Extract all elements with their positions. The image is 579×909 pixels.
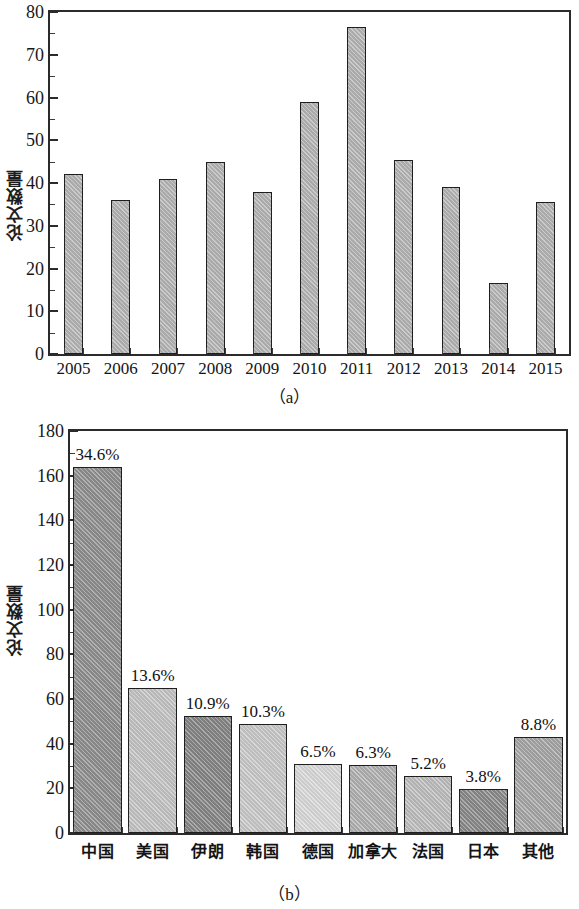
x-axis-minor-tick bbox=[287, 827, 288, 833]
bar-hatch-pattern bbox=[405, 777, 451, 832]
y-axis-label-panel-b: 论文数量 bbox=[2, 555, 27, 685]
panel-caption-b: （b） bbox=[0, 880, 579, 905]
bar-hatch-pattern bbox=[490, 284, 507, 353]
bar bbox=[294, 764, 342, 833]
y-axis-minor-tick bbox=[50, 333, 55, 334]
bar-value-label: 8.8% bbox=[521, 715, 556, 735]
y-axis-minor-tick bbox=[70, 453, 75, 454]
y-axis-tick-label: 100 bbox=[37, 601, 64, 619]
x-axis-minor-tick bbox=[508, 348, 509, 354]
x-axis-minor-tick bbox=[128, 827, 129, 833]
x-axis-minor-tick bbox=[489, 348, 490, 354]
bar bbox=[253, 192, 272, 354]
bar bbox=[349, 765, 397, 833]
bar-hatch-pattern bbox=[515, 738, 561, 832]
x-axis-tick-label: 法国 bbox=[412, 838, 445, 862]
y-axis-tick-label: 160 bbox=[37, 467, 64, 485]
x-axis-minor-tick bbox=[272, 348, 273, 354]
bar-hatch-pattern bbox=[74, 468, 120, 832]
bar-hatch-pattern bbox=[295, 765, 341, 832]
x-axis-minor-tick bbox=[366, 348, 367, 354]
bar-hatch-pattern bbox=[348, 28, 365, 353]
bar-value-label: 5.2% bbox=[411, 754, 446, 774]
x-axis-tick-label: 德国 bbox=[302, 838, 335, 862]
y-axis-tick-label: 50 bbox=[26, 131, 44, 149]
x-axis-minor-tick bbox=[64, 348, 65, 354]
bar bbox=[111, 200, 130, 354]
bar bbox=[128, 688, 176, 833]
bar bbox=[300, 102, 319, 354]
x-axis-tick-label: 2008 bbox=[198, 359, 232, 379]
y-axis-tick-label: 70 bbox=[26, 46, 44, 64]
x-axis-tick-label: 加拿大 bbox=[348, 838, 398, 862]
x-axis-minor-tick bbox=[397, 827, 398, 833]
y-axis-tick-label: 40 bbox=[46, 735, 64, 753]
y-axis-tick-label: 180 bbox=[37, 422, 64, 440]
y-axis-tick-label: 20 bbox=[46, 779, 64, 797]
y-axis-minor-tick bbox=[50, 290, 55, 291]
x-axis-tick-label: 2013 bbox=[434, 359, 468, 379]
x-axis-minor-tick bbox=[413, 348, 414, 354]
bar-hatch-pattern bbox=[129, 689, 175, 832]
x-axis-minor-tick bbox=[130, 348, 131, 354]
bar-value-label: 6.5% bbox=[300, 742, 335, 762]
x-axis-minor-tick bbox=[83, 348, 84, 354]
x-axis-tick-label: 2009 bbox=[245, 359, 279, 379]
y-axis-minor-tick bbox=[50, 76, 55, 77]
bar bbox=[159, 179, 178, 354]
x-axis-minor-tick bbox=[225, 348, 226, 354]
x-axis-minor-tick bbox=[460, 348, 461, 354]
bar bbox=[239, 724, 287, 833]
bar-value-label: 13.6% bbox=[131, 666, 175, 686]
x-axis-minor-tick bbox=[459, 827, 460, 833]
y-axis-tick bbox=[50, 97, 58, 99]
x-axis-minor-tick bbox=[73, 827, 74, 833]
y-axis-tick bbox=[70, 430, 78, 432]
bar-hatch-pattern bbox=[112, 201, 129, 353]
bar-hatch-pattern bbox=[240, 725, 286, 832]
bar-hatch-pattern bbox=[537, 203, 554, 353]
x-axis-minor-tick bbox=[508, 827, 509, 833]
bar bbox=[394, 160, 413, 355]
bar bbox=[73, 467, 121, 833]
y-axis-tick bbox=[50, 139, 58, 141]
y-axis-tick bbox=[50, 182, 58, 184]
bar bbox=[184, 716, 232, 833]
x-axis-minor-tick bbox=[452, 827, 453, 833]
x-axis-minor-tick bbox=[555, 348, 556, 354]
bar-value-label: 6.3% bbox=[355, 743, 390, 763]
x-axis-minor-tick bbox=[206, 348, 207, 354]
x-axis-minor-tick bbox=[294, 827, 295, 833]
y-axis-minor-tick bbox=[50, 33, 55, 34]
y-axis-tick-label: 20 bbox=[26, 260, 44, 278]
x-axis-minor-tick bbox=[404, 827, 405, 833]
y-axis-tick bbox=[50, 310, 58, 312]
bar-value-label: 34.6% bbox=[76, 445, 120, 465]
y-axis-tick-label: 0 bbox=[35, 345, 44, 363]
y-axis-tick bbox=[50, 353, 58, 355]
bar bbox=[536, 202, 555, 354]
chart-panel-b: 论文数量 020406080100120140160180中国34.6%美国13… bbox=[0, 410, 579, 909]
y-axis-tick-label: 120 bbox=[37, 556, 64, 574]
y-axis-tick-label: 60 bbox=[26, 89, 44, 107]
panel-caption-a: （a） bbox=[0, 383, 579, 408]
x-axis-minor-tick bbox=[342, 827, 343, 833]
x-axis-tick-label: 日本 bbox=[467, 838, 500, 862]
x-axis-tick-label: 2007 bbox=[151, 359, 185, 379]
x-axis-tick-label: 2006 bbox=[104, 359, 138, 379]
bar-value-label: 3.8% bbox=[466, 767, 501, 787]
x-axis-minor-tick bbox=[563, 827, 564, 833]
x-axis-minor-tick bbox=[394, 348, 395, 354]
bar-hatch-pattern bbox=[185, 717, 231, 832]
x-axis-minor-tick bbox=[111, 348, 112, 354]
bar bbox=[489, 283, 508, 354]
x-axis-minor-tick bbox=[442, 348, 443, 354]
y-axis-tick-label: 40 bbox=[26, 174, 44, 192]
x-axis-minor-tick bbox=[319, 348, 320, 354]
bar-hatch-pattern bbox=[254, 193, 271, 353]
bar bbox=[514, 737, 562, 833]
y-axis-tick-label: 80 bbox=[26, 3, 44, 21]
x-axis-tick-label: 其他 bbox=[522, 838, 555, 862]
x-axis-tick-label: 2010 bbox=[293, 359, 327, 379]
bar-hatch-pattern bbox=[301, 103, 318, 353]
